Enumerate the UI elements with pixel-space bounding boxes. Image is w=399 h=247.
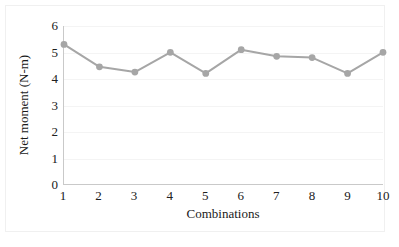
x-axis-tick-label: 1 [43,188,83,203]
y-axis-tick-label: 2 [10,125,58,138]
x-axis-tick-label: 6 [221,188,261,203]
x-axis-tick-label: 9 [327,188,367,203]
line-series-net-moment [64,26,383,184]
series-line [64,44,383,73]
y-axis-tick-label: 6 [10,19,58,32]
x-axis-tick-label: 4 [150,188,190,203]
x-axis-tick-label: 8 [292,188,332,203]
data-point-marker [202,70,209,77]
data-point-marker [167,49,174,56]
data-point-marker [309,54,316,61]
x-axis-tick-label: 10 [363,188,399,203]
data-point-marker [61,41,68,48]
data-point-marker [344,70,351,77]
data-point-marker [131,69,138,76]
data-point-marker [273,53,280,60]
data-point-marker [96,63,103,70]
y-axis-tick-label: 5 [10,46,58,59]
x-axis-tick-label: 7 [256,188,296,203]
plot-area [63,26,383,185]
x-axis-title: Combinations [63,206,383,221]
y-axis-tick-label: 3 [10,99,58,112]
x-axis-tick-labels: 12345678910 [6,188,386,206]
y-axis-tick-label: 1 [10,152,58,165]
chart-frame: Net moment (N-m) 0123456 12345678910 Com… [5,5,385,232]
x-axis-tick-label: 3 [114,188,154,203]
y-axis-tick-label: 4 [10,72,58,85]
data-point-marker [238,46,245,53]
y-axis-tick-labels: 0123456 [6,6,58,205]
data-point-marker [380,49,387,56]
x-axis-tick-label: 2 [79,188,119,203]
x-axis-tick-label: 5 [185,188,225,203]
